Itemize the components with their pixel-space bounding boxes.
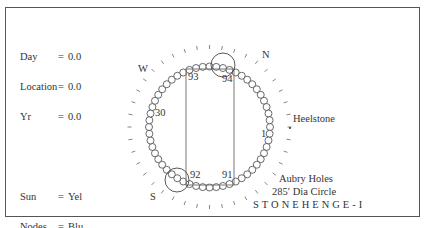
compass-north: N	[262, 49, 270, 60]
aubrey-hole	[265, 110, 272, 117]
tick-mark	[279, 90, 283, 92]
tick-mark	[184, 49, 185, 53]
hole-label-1: 1	[261, 128, 266, 139]
station-stone-rectangle	[186, 69, 234, 185]
tick-mark	[273, 173, 276, 175]
aubrey-hole	[219, 65, 226, 72]
tick-mark	[222, 204, 223, 208]
hole-label-92: 92	[190, 169, 201, 180]
diagram-title: STONEHENGE-I	[253, 199, 365, 210]
aubrey-hole	[226, 181, 233, 188]
aubrey-hole	[266, 117, 273, 124]
aubrey-hole	[266, 130, 273, 137]
tick-mark	[136, 90, 140, 92]
tick-mark	[279, 162, 283, 164]
aubrey-hole	[219, 182, 226, 189]
tick-mark	[287, 139, 291, 140]
tick-mark	[143, 173, 146, 175]
tick-mark	[184, 201, 185, 205]
hole-label-93: 93	[188, 71, 199, 82]
tick-mark	[284, 102, 288, 103]
heelstone-label: Heelstone	[293, 113, 335, 124]
aubrey-hole	[146, 117, 153, 124]
heelstone-marker	[289, 127, 291, 129]
caption-aubry-holes: Aubry Holes	[279, 173, 333, 184]
tick-mark	[172, 54, 174, 58]
aubrey-holes-ring	[146, 63, 274, 191]
tick-mark	[255, 61, 257, 64]
tick-mark	[129, 139, 133, 140]
tick-mark	[161, 190, 163, 193]
aubrey-hole	[146, 130, 153, 137]
tick-mark	[132, 151, 136, 152]
hole-label-94: 94	[222, 73, 233, 84]
hole-label-91: 91	[222, 169, 233, 180]
aubrey-hole	[147, 137, 154, 144]
compass-south: S	[150, 191, 156, 202]
hole-label-30: 30	[155, 107, 166, 118]
tick-mark	[234, 201, 235, 205]
tick-mark	[284, 151, 288, 152]
tick-mark	[129, 114, 133, 115]
tick-mark	[161, 61, 163, 64]
tick-mark	[172, 197, 174, 201]
aubrey-hole	[149, 143, 156, 150]
aubrey-hole	[267, 124, 274, 131]
tick-mark	[287, 114, 291, 115]
tick-mark	[245, 197, 247, 201]
tick-mark	[136, 162, 140, 164]
caption-diameter: 285′ Dia Circle	[272, 186, 336, 197]
aubrey-hole	[146, 124, 153, 131]
aubrey-hole	[147, 110, 154, 117]
tick-mark	[234, 49, 235, 53]
tick-mark	[143, 79, 146, 81]
tick-mark	[152, 69, 155, 72]
tick-mark	[245, 54, 247, 58]
compass-west: W	[138, 63, 148, 74]
tick-mark	[265, 69, 268, 72]
tick-mark	[265, 182, 268, 185]
tick-mark	[152, 182, 155, 185]
tick-mark	[255, 190, 257, 193]
tick-mark	[197, 46, 198, 50]
tick-mark	[132, 102, 136, 103]
tick-mark	[197, 204, 198, 208]
tick-mark	[273, 79, 276, 81]
tick-mark	[222, 46, 223, 50]
aubrey-hole	[193, 182, 200, 189]
aubrey-hole	[263, 104, 270, 111]
stonehenge-diagram: W N S 93 94 30 1 92 91 Heelstone Aubry H…	[0, 0, 429, 228]
